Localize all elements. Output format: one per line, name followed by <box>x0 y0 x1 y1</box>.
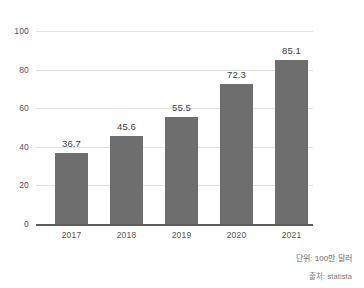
plot-area: 100 80 60 40 20 0 36.7 2017 45.6 <box>36 31 313 224</box>
bar-slot-2017: 36.7 2017 <box>44 31 99 224</box>
y-axis-tick-label-0: 0 <box>24 219 29 229</box>
bar-value-label-2017: 36.7 <box>44 138 99 149</box>
x-axis-baseline: 0 <box>36 224 313 226</box>
bar-chart: 100 80 60 40 20 0 36.7 2017 45.6 <box>0 0 364 288</box>
bar-2018[interactable] <box>110 136 143 224</box>
bar-2021[interactable] <box>275 60 308 224</box>
bar-2020[interactable] <box>220 84 253 224</box>
bar-slot-2021: 85.1 2021 <box>264 31 319 224</box>
bar-value-label-2021: 85.1 <box>264 45 319 56</box>
bar-slot-2018: 45.6 2018 <box>99 31 154 224</box>
x-axis-tick-label-2017: 2017 <box>44 230 99 240</box>
unit-note: 단위: 100만 달러 <box>296 252 352 263</box>
y-axis-tick-label-20: 20 <box>19 180 29 190</box>
x-axis-tick-label-2020: 2020 <box>209 230 264 240</box>
bar-value-label-2018: 45.6 <box>99 121 154 132</box>
bar-value-label-2019: 55.5 <box>154 102 209 113</box>
x-axis-tick-label-2019: 2019 <box>154 230 209 240</box>
x-axis-tick-label-2021: 2021 <box>264 230 319 240</box>
x-axis-tick-label-2018: 2018 <box>99 230 154 240</box>
bar-slot-2020: 72.3 2020 <box>209 31 264 224</box>
bar-series: 36.7 2017 45.6 2018 55.5 2019 72.3 2020 <box>36 31 313 224</box>
bar-slot-2019: 55.5 2019 <box>154 31 209 224</box>
bar-2017[interactable] <box>55 153 88 224</box>
y-axis-tick-label-40: 40 <box>19 142 29 152</box>
y-axis-tick-label-60: 60 <box>19 103 29 113</box>
y-axis-tick-label-80: 80 <box>19 65 29 75</box>
source-note: 출처: statista <box>309 270 352 281</box>
bar-value-label-2020: 72.3 <box>209 69 264 80</box>
y-axis-tick-label-100: 100 <box>14 26 29 36</box>
bar-2019[interactable] <box>165 117 198 224</box>
